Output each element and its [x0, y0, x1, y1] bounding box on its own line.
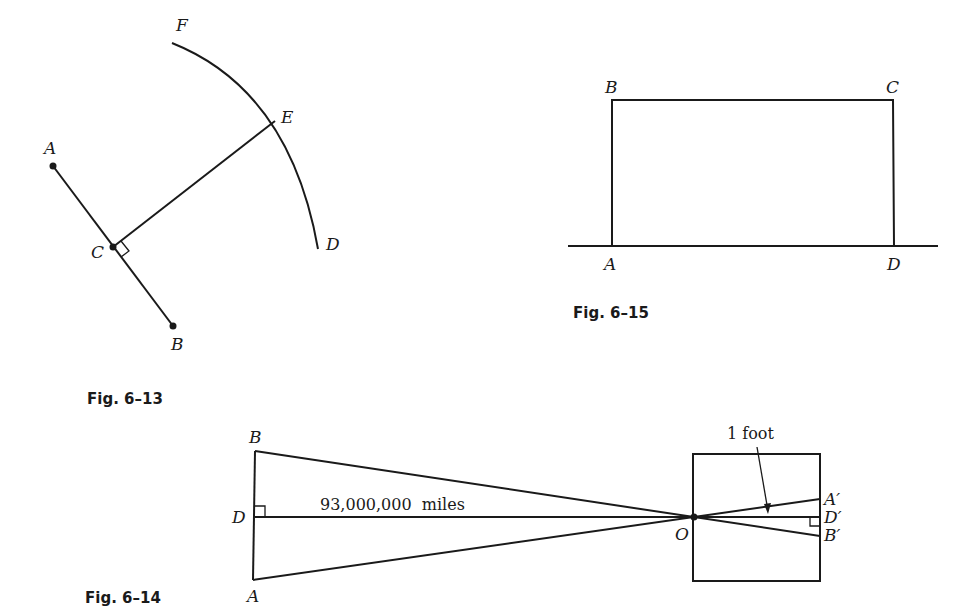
- arrow-head-icon: [764, 503, 771, 514]
- label-c: C: [886, 77, 899, 97]
- figure-6-14: B D A O A′ D′ B′ 93,000,000 miles 1 foot…: [85, 424, 842, 607]
- rectangle-abcd: [612, 100, 894, 246]
- point-a: [50, 163, 57, 170]
- label-d: D: [325, 234, 340, 254]
- label-a: A: [602, 254, 616, 274]
- caption-fig-6-14: Fig. 6–14: [85, 589, 161, 607]
- label-d: D: [231, 507, 246, 527]
- ray-b-bprime: [255, 451, 820, 536]
- label-f: F: [175, 15, 189, 35]
- label-b: B: [170, 334, 184, 354]
- caption-fig-6-13: Fig. 6–13: [87, 390, 163, 408]
- right-angle-mark: [121, 241, 129, 257]
- caption-fig-6-15: Fig. 6–15: [573, 304, 649, 322]
- figures-canvas: F E A C D B Fig. 6–13 B C A D Fig. 6–15 …: [0, 0, 972, 609]
- label-b: B: [248, 427, 262, 447]
- right-angle-mark-dprime: [810, 517, 820, 526]
- size-label: 1 foot: [727, 424, 774, 443]
- segment-ce: [113, 121, 275, 247]
- label-d: D: [886, 254, 901, 274]
- figure-6-13: F E A C D B Fig. 6–13: [42, 15, 340, 408]
- figure-6-15: B C A D Fig. 6–15: [568, 77, 938, 322]
- label-o: O: [675, 524, 689, 544]
- label-e: E: [280, 107, 294, 127]
- label-c: C: [91, 242, 104, 262]
- label-a-prime: A′: [822, 489, 840, 509]
- label-a: A: [245, 586, 259, 606]
- arc-fd: [172, 43, 318, 249]
- point-o: [691, 514, 698, 521]
- arrow-line: [757, 447, 768, 511]
- distance-label: 93,000,000 miles: [320, 495, 465, 514]
- segment-ba: [253, 451, 255, 580]
- point-b: [170, 323, 177, 330]
- right-angle-mark-d: [255, 506, 265, 517]
- label-b-prime: B′: [823, 525, 840, 545]
- label-d-prime: D′: [823, 507, 842, 527]
- label-a: A: [42, 138, 56, 158]
- point-c: [110, 244, 117, 251]
- label-b: B: [604, 77, 618, 97]
